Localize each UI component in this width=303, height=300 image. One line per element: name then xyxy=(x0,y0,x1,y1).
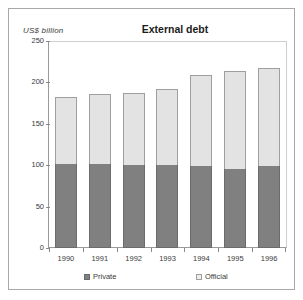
legend-swatch-private-icon xyxy=(84,274,90,280)
bar-segment-official[interactable] xyxy=(55,97,77,164)
x-axis-tick-mark xyxy=(117,248,118,252)
y-axis-tick-label: 0 xyxy=(40,243,44,252)
x-axis-category-label: 1993 xyxy=(151,254,185,266)
y-axis-tick-label: 150 xyxy=(31,119,44,128)
bar-stack[interactable] xyxy=(190,75,212,248)
y-axis-tick: 150 xyxy=(20,124,50,125)
chart-legend: Private Official xyxy=(48,272,287,284)
x-axis-tick-mark xyxy=(184,248,185,252)
y-axis-tick: 100 xyxy=(20,165,50,166)
bar-stack[interactable] xyxy=(156,89,178,248)
x-axis-tick-mark xyxy=(252,248,253,252)
y-axis-tick-label: 250 xyxy=(31,36,44,45)
bar-segment-official[interactable] xyxy=(123,93,145,165)
x-axis-category-label: 1990 xyxy=(49,254,83,266)
bar-column[interactable] xyxy=(190,42,212,248)
bar-segment-private[interactable] xyxy=(258,166,280,248)
bar-stack[interactable] xyxy=(89,94,111,248)
bar-column[interactable] xyxy=(224,42,246,248)
bar-segment-private[interactable] xyxy=(156,165,178,248)
x-axis-category-label: 1991 xyxy=(83,254,117,266)
y-axis-unit-label: US$ billion xyxy=(23,26,63,35)
bar-column[interactable] xyxy=(89,42,111,248)
x-axis-ticks xyxy=(49,248,286,252)
x-axis-tick-mark xyxy=(218,248,219,252)
bar-segment-official[interactable] xyxy=(258,68,280,167)
y-axis-tick: 250 xyxy=(20,41,50,42)
x-axis-category-label: 1996 xyxy=(252,254,286,266)
bar-column[interactable] xyxy=(156,42,178,248)
x-axis-category-label: 1994 xyxy=(184,254,218,266)
bar-segment-private[interactable] xyxy=(190,166,212,248)
bar-stack[interactable] xyxy=(224,71,246,248)
x-axis-labels: 1990199119921993199419951996 xyxy=(49,254,286,266)
x-axis-category-label: 1995 xyxy=(218,254,252,266)
bars-layer xyxy=(49,42,286,248)
bar-segment-private[interactable] xyxy=(123,165,145,248)
x-axis-tick-mark xyxy=(151,248,152,252)
y-axis-tick: 200 xyxy=(20,82,50,83)
bar-stack[interactable] xyxy=(55,97,77,248)
legend-label-official: Official xyxy=(205,272,228,281)
bar-segment-private[interactable] xyxy=(55,164,77,248)
y-axis-tick: 50 xyxy=(20,207,50,208)
legend-entry-official: Official xyxy=(196,272,228,281)
x-axis-category-label: 1992 xyxy=(117,254,151,266)
x-axis-tick-mark xyxy=(83,248,84,252)
chart-title: External debt xyxy=(60,23,290,35)
bar-segment-private[interactable] xyxy=(224,169,246,248)
legend-label-private: Private xyxy=(93,272,116,281)
bar-segment-official[interactable] xyxy=(190,75,212,166)
chart-figure: US$ billion External debt 05010015020025… xyxy=(0,0,303,300)
bar-segment-official[interactable] xyxy=(224,71,246,170)
legend-entry-private: Private xyxy=(84,272,116,281)
y-axis-tick-label: 100 xyxy=(31,160,44,169)
bar-column[interactable] xyxy=(123,42,145,248)
bar-stack[interactable] xyxy=(123,93,145,248)
bar-segment-private[interactable] xyxy=(89,164,111,248)
legend-swatch-official-icon xyxy=(196,274,202,280)
y-axis-tick-label: 200 xyxy=(31,77,44,86)
y-axis-tick-label: 50 xyxy=(36,202,44,211)
bar-segment-official[interactable] xyxy=(89,94,111,164)
bar-stack[interactable] xyxy=(258,68,280,249)
bar-column[interactable] xyxy=(258,42,280,248)
x-axis-tick-mark xyxy=(49,248,50,252)
bar-column[interactable] xyxy=(55,42,77,248)
y-axis-tick: 0 xyxy=(20,248,50,249)
bar-segment-official[interactable] xyxy=(156,89,178,165)
x-axis-tick-mark xyxy=(285,248,286,252)
